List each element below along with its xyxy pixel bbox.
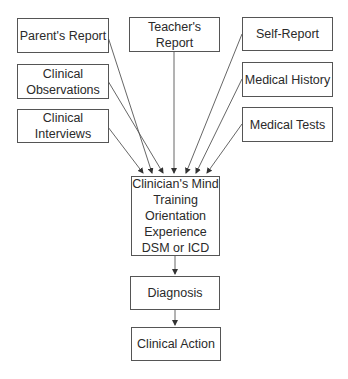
box-teachers-report: Teacher's Report [129, 17, 220, 52]
box-parents-report: Parent's Report [17, 18, 109, 53]
box-clinical-action: Clinical Action [131, 327, 221, 361]
edge-medical-tests [207, 124, 242, 173]
edge-self-report [186, 34, 242, 173]
box-medical-history: Medical History [242, 62, 333, 97]
edge-parents-report [108, 37, 152, 173]
edge-clinical-interviews [108, 127, 143, 173]
box-diagnosis: Diagnosis [130, 276, 220, 310]
box-clinicians-mind: Clinician's Mind Training Orientation Ex… [131, 176, 220, 256]
edge-medical-history [196, 79, 242, 173]
edge-clinical-observations [108, 81, 163, 173]
box-self-report: Self-Report [242, 17, 333, 51]
box-clinical-interviews: Clinical Interviews [17, 109, 109, 143]
box-clinical-observations: Clinical Observations [17, 64, 109, 99]
box-medical-tests: Medical Tests [242, 107, 333, 142]
